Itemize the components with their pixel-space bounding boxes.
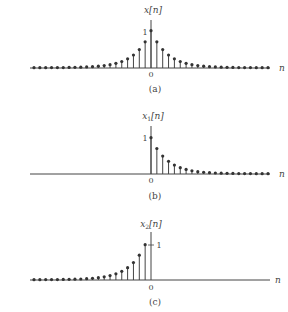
stem-marker bbox=[149, 136, 152, 139]
stem-marker bbox=[85, 65, 88, 68]
panel-b-xtick-0: 0 bbox=[148, 176, 153, 185]
stem-marker bbox=[132, 53, 135, 56]
stem-marker bbox=[214, 65, 217, 68]
stem-marker bbox=[73, 278, 76, 281]
panel-a-ytick-1: 1 bbox=[142, 28, 147, 37]
stem-marker bbox=[62, 66, 65, 69]
stem-marker bbox=[231, 66, 234, 69]
stem-marker bbox=[196, 64, 199, 67]
figure-canvas: x[n] 1 0 n (a) x1[n] 1 0 n (b) x2[n] 1 0… bbox=[0, 0, 288, 312]
stem-marker bbox=[243, 66, 246, 69]
panel-c-xlabel: n bbox=[275, 275, 281, 285]
stem-marker bbox=[79, 66, 82, 69]
stem-marker bbox=[243, 172, 246, 175]
stem-marker bbox=[32, 66, 35, 69]
stem-marker bbox=[161, 154, 164, 157]
panel-c-ylabel: x2[n] bbox=[140, 219, 162, 230]
stem-marker bbox=[144, 40, 147, 43]
panel-a-plot: x[n] 1 0 n (a) bbox=[30, 5, 285, 94]
stem-marker bbox=[173, 57, 176, 60]
stem-marker bbox=[79, 277, 82, 280]
stem-marker bbox=[179, 166, 182, 169]
panel-c-caption: (c) bbox=[149, 297, 161, 307]
stem-marker bbox=[225, 66, 228, 69]
stem-marker bbox=[56, 66, 59, 69]
panel-a-ylabel: x[n] bbox=[144, 5, 162, 15]
stem-marker bbox=[50, 278, 53, 281]
stem-marker bbox=[91, 65, 94, 68]
stem-marker bbox=[56, 278, 59, 281]
panel-c-stems bbox=[32, 243, 146, 281]
stem-marker bbox=[108, 63, 111, 66]
stem-marker bbox=[38, 278, 41, 281]
stem-marker bbox=[173, 163, 176, 166]
stem-marker bbox=[38, 66, 41, 69]
stem-marker bbox=[68, 66, 71, 69]
panel-b-stems bbox=[149, 136, 269, 175]
stem-marker bbox=[144, 243, 147, 246]
stem-marker bbox=[32, 278, 35, 281]
stem-marker bbox=[261, 66, 264, 69]
stem-marker bbox=[266, 66, 269, 69]
stem-marker bbox=[85, 277, 88, 280]
stem-marker bbox=[237, 66, 240, 69]
stem-marker bbox=[261, 172, 264, 175]
stem-marker bbox=[208, 171, 211, 174]
stem-marker bbox=[108, 274, 111, 277]
stem-marker bbox=[214, 171, 217, 174]
panel-c-ytick-1: 1 bbox=[156, 241, 161, 250]
panel-a-caption: (a) bbox=[149, 84, 161, 94]
stem-marker bbox=[161, 48, 164, 51]
panel-c-plot: x2[n] 1 0 n (c) bbox=[30, 219, 281, 307]
stem-marker bbox=[120, 60, 123, 63]
stem-marker bbox=[249, 66, 252, 69]
stem-marker bbox=[237, 172, 240, 175]
stem-marker bbox=[190, 169, 193, 172]
stem-marker bbox=[103, 64, 106, 67]
stem-marker bbox=[167, 160, 170, 163]
stem-marker bbox=[114, 62, 117, 65]
panel-b-ylabel: x1[n] bbox=[142, 111, 164, 122]
stem-marker bbox=[220, 172, 223, 175]
stem-marker bbox=[231, 172, 234, 175]
stem-marker bbox=[126, 57, 129, 60]
panel-a-stems bbox=[32, 29, 269, 69]
stem-marker bbox=[155, 147, 158, 150]
stem-marker bbox=[225, 172, 228, 175]
stem-marker bbox=[266, 172, 269, 175]
stem-marker bbox=[126, 266, 129, 269]
panel-b-xlabel: n bbox=[279, 169, 285, 179]
stem-marker bbox=[44, 66, 47, 69]
stem-marker bbox=[97, 276, 100, 279]
panel-c-xtick-0: 0 bbox=[148, 283, 153, 292]
panel-b-ytick-1: 1 bbox=[142, 134, 147, 143]
stem-marker bbox=[255, 172, 258, 175]
stem-marker bbox=[202, 171, 205, 174]
stem-marker bbox=[208, 65, 211, 68]
panel-b-caption: (b) bbox=[149, 191, 162, 201]
stem-marker bbox=[185, 62, 188, 65]
stem-marker bbox=[132, 261, 135, 264]
stem-marker bbox=[68, 278, 71, 281]
stem-marker bbox=[120, 270, 123, 273]
stem-marker bbox=[196, 170, 199, 173]
stem-marker bbox=[190, 63, 193, 66]
stem-marker bbox=[249, 172, 252, 175]
stem-marker bbox=[114, 272, 117, 275]
panel-a-xlabel: n bbox=[279, 63, 285, 73]
stem-marker bbox=[73, 66, 76, 69]
stem-marker bbox=[220, 66, 223, 69]
stem-marker bbox=[149, 29, 152, 32]
stem-marker bbox=[167, 53, 170, 56]
stem-marker bbox=[185, 168, 188, 171]
stem-marker bbox=[255, 66, 258, 69]
stem-marker bbox=[155, 40, 158, 43]
stem-marker bbox=[44, 278, 47, 281]
stem-marker bbox=[138, 48, 141, 51]
panel-a-xtick-0: 0 bbox=[148, 70, 153, 79]
stem-marker bbox=[138, 254, 141, 257]
stem-marker bbox=[202, 65, 205, 68]
stem-marker bbox=[91, 277, 94, 280]
stem-marker bbox=[62, 278, 65, 281]
stem-marker bbox=[50, 66, 53, 69]
